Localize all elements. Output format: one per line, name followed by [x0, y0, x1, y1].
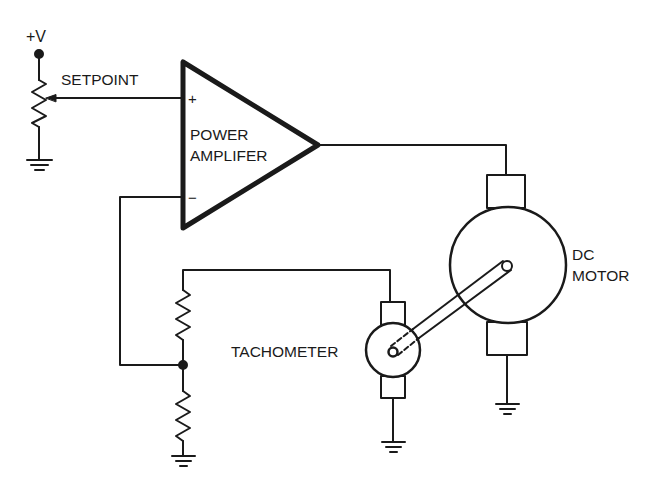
- ground-icon: [382, 442, 405, 452]
- ground-icon: [27, 160, 52, 170]
- motor-label-line2: MOTOR: [572, 267, 629, 284]
- feedback-divider: [176, 270, 390, 456]
- wiper-arrow-icon: [46, 95, 56, 102]
- tachometer: [366, 302, 420, 442]
- tachometer-label: TACHOMETER: [231, 343, 338, 360]
- ground-icon: [496, 404, 519, 414]
- schematic-canvas: +V SETPOINT + − POWER AMPLIFER DC MOTOR …: [0, 0, 671, 491]
- amp-label-line1: POWER: [190, 126, 249, 143]
- supply-terminal-dot: [35, 50, 43, 58]
- motor-bottom-brush: [487, 322, 527, 355]
- setpoint-potentiometer: [32, 50, 183, 160]
- motor-label-line1: DC: [572, 246, 594, 263]
- amp-label-line2: AMPLIFER: [190, 147, 268, 164]
- tach-top-brush: [381, 302, 405, 325]
- potentiometer-resistor: [32, 80, 46, 127]
- amp-output-wire: [318, 145, 506, 175]
- setpoint-label: SETPOINT: [61, 71, 139, 88]
- motor-top-brush: [487, 175, 525, 208]
- amp-plus-label: +: [188, 90, 197, 107]
- supply-label: +V: [26, 28, 46, 45]
- amp-minus-label: −: [188, 189, 197, 206]
- tach-shaft-end: [389, 348, 398, 357]
- feedback-wire: [120, 197, 183, 365]
- lower-resistor: [176, 391, 190, 441]
- tach-bottom-brush: [381, 376, 405, 398]
- ground-icon: [172, 456, 195, 466]
- power-amplifier-symbol: [183, 62, 318, 228]
- motor-shaft-end: [502, 261, 512, 271]
- junction-dot: [179, 361, 187, 369]
- upper-resistor: [176, 290, 190, 340]
- dc-motor: [450, 175, 566, 404]
